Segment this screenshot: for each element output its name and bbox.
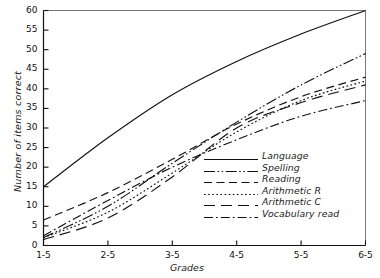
legend-item: Spelling xyxy=(203,162,363,174)
x-tick-label: 6-5 xyxy=(351,250,380,260)
legend: LanguageSpellingReadingArithmetic RArith… xyxy=(203,150,363,219)
x-tick-label: 5-5 xyxy=(286,250,316,260)
legend-label: Reading xyxy=(262,173,301,184)
y-tick-label: 55 xyxy=(18,24,38,34)
y-tick-label: 60 xyxy=(18,5,38,15)
x-tick-label: 4-5 xyxy=(222,250,252,260)
legend-line-swatch xyxy=(203,150,259,161)
legend-item: Language xyxy=(203,150,363,162)
legend-label: Spelling xyxy=(262,162,300,173)
legend-label: Vocabulary read xyxy=(262,208,339,219)
legend-line-swatch xyxy=(203,196,259,207)
y-tick-label: 5 xyxy=(18,220,38,230)
y-tick-label: 10 xyxy=(18,200,38,210)
x-tick-label: 1-5 xyxy=(29,250,59,260)
figure-line-chart: 051015202530354045505560 1-52-53-54-55-5… xyxy=(0,0,380,278)
x-axis-title: Grades xyxy=(170,262,204,273)
legend-label: Language xyxy=(262,150,309,161)
y-tick-label: 50 xyxy=(18,44,38,54)
legend-item: Arithmetic R xyxy=(203,185,363,197)
legend-item: Reading xyxy=(203,173,363,185)
legend-line-swatch xyxy=(203,185,259,196)
plot-area xyxy=(0,0,380,278)
legend-item: Vocabulary read xyxy=(203,208,363,220)
x-tick-label: 3-5 xyxy=(157,250,187,260)
legend-label: Arithmetic R xyxy=(262,185,321,196)
legend-line-swatch xyxy=(203,208,259,219)
legend-item: Arithmetic C xyxy=(203,196,363,208)
x-tick-label: 2-5 xyxy=(93,250,123,260)
legend-line-swatch xyxy=(203,162,259,173)
y-axis-title: Number of items correct xyxy=(12,71,23,192)
y-tick-label: 0 xyxy=(18,240,38,250)
legend-label: Arithmetic C xyxy=(262,196,321,207)
legend-line-swatch xyxy=(203,173,259,184)
